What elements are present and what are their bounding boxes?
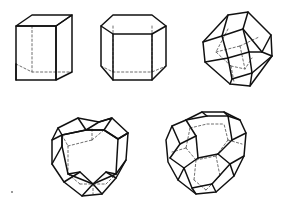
figure-background: [0, 0, 281, 209]
scan-speck: [11, 191, 13, 193]
polyhedra-figure: [0, 0, 281, 209]
figure-canvas: [0, 0, 281, 209]
